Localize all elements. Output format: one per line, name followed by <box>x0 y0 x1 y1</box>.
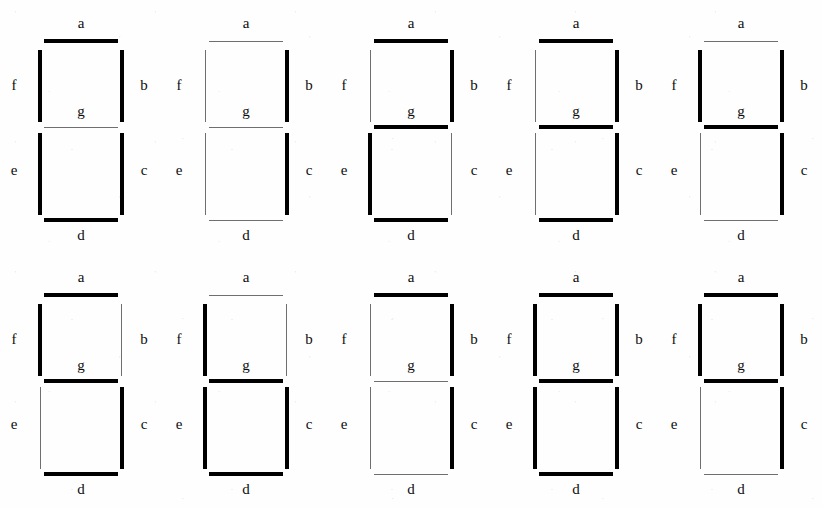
segment-g-on <box>44 379 118 383</box>
segment-label-e: e <box>666 417 682 432</box>
segment-c-on <box>615 133 619 215</box>
segment-label-d: d <box>238 228 254 243</box>
segment-a-on <box>374 293 448 297</box>
segment-label-g: g <box>568 358 584 373</box>
segment-a-on <box>374 39 448 43</box>
segment-label-f: f <box>501 332 517 347</box>
segment-label-a: a <box>733 270 749 285</box>
segment-label-d: d <box>73 228 89 243</box>
segment-label-a: a <box>238 16 254 31</box>
segment-label-b: b <box>136 78 152 93</box>
segment-f-off <box>370 50 371 122</box>
display-row-top: afbgecdafbgecdafbgecdafbgecdafbgecd <box>0 0 823 254</box>
segment-d-on <box>209 472 283 476</box>
segment-e-on <box>203 387 207 469</box>
segment-label-b: b <box>301 332 317 347</box>
segment-label-e: e <box>501 417 517 432</box>
segment-f-off <box>370 304 371 376</box>
seven-segment-display-0: afbgecd <box>0 0 165 254</box>
segment-label-g: g <box>403 358 419 373</box>
segment-label-b: b <box>136 332 152 347</box>
segment-a-on <box>44 293 118 297</box>
segment-label-f: f <box>6 78 22 93</box>
segment-b-on <box>450 304 454 376</box>
segment-d-off <box>704 220 778 221</box>
segment-f-on <box>38 304 42 376</box>
segment-c-on <box>285 387 289 469</box>
segment-f-on <box>38 50 42 122</box>
segment-label-f: f <box>6 332 22 347</box>
seven-segment-digit-figure: afbgecdafbgecdafbgecdafbgecdafbgecd afbg… <box>0 0 823 508</box>
segment-e-off <box>535 133 536 215</box>
segment-label-d: d <box>568 228 584 243</box>
segment-label-b: b <box>631 78 647 93</box>
segment-label-b: b <box>466 78 482 93</box>
segment-b-on <box>120 50 124 122</box>
segment-d-on <box>539 218 613 222</box>
display-row-bottom: afbgecdafbgecdafbgecdafbgecdafbgecd <box>0 254 823 508</box>
segment-label-c: c <box>796 417 812 432</box>
segment-label-b: b <box>796 332 812 347</box>
segment-e-on <box>368 133 372 215</box>
segment-b-on <box>780 304 784 376</box>
seven-segment-display-9: afbgecd <box>660 254 823 508</box>
segment-label-c: c <box>301 163 317 178</box>
segment-label-e: e <box>336 163 352 178</box>
segment-e-off <box>370 387 371 469</box>
seven-segment-display-7: afbgecd <box>330 254 495 508</box>
segment-g-on <box>539 379 613 383</box>
segment-label-g: g <box>73 104 89 119</box>
segment-label-c: c <box>466 163 482 178</box>
segment-label-a: a <box>403 270 419 285</box>
segment-label-a: a <box>238 270 254 285</box>
segment-e-on <box>38 133 42 215</box>
segment-label-c: c <box>136 417 152 432</box>
segment-e-on <box>533 387 537 469</box>
segment-b-on <box>285 50 289 122</box>
segment-d-off <box>209 220 283 221</box>
segment-b-on <box>615 50 619 122</box>
segment-f-on <box>698 304 702 376</box>
segment-a-off <box>209 41 283 42</box>
segment-c-on <box>450 387 454 469</box>
segment-label-d: d <box>238 482 254 497</box>
segment-g-off <box>209 127 283 128</box>
segment-c-on <box>285 133 289 215</box>
seven-segment-display-3: afbgecd <box>495 0 660 254</box>
segment-label-b: b <box>301 78 317 93</box>
segment-a-on <box>704 293 778 297</box>
segment-label-c: c <box>301 417 317 432</box>
segment-b-off <box>121 304 122 376</box>
segment-label-e: e <box>6 417 22 432</box>
segment-label-g: g <box>568 104 584 119</box>
segment-label-c: c <box>136 163 152 178</box>
segment-label-c: c <box>796 163 812 178</box>
segment-c-on <box>120 133 124 215</box>
segment-f-on <box>698 50 702 122</box>
segment-label-f: f <box>666 332 682 347</box>
segment-label-f: f <box>336 332 352 347</box>
segment-a-off <box>209 295 283 296</box>
segment-label-a: a <box>568 270 584 285</box>
segment-f-on <box>203 304 207 376</box>
segment-g-on <box>209 379 283 383</box>
segment-g-on <box>374 125 448 129</box>
segment-e-off <box>700 387 701 469</box>
segment-label-c: c <box>466 417 482 432</box>
segment-label-a: a <box>403 16 419 31</box>
segment-label-d: d <box>733 228 749 243</box>
segment-label-f: f <box>171 332 187 347</box>
segment-f-off <box>535 50 536 122</box>
segment-label-e: e <box>171 417 187 432</box>
segment-f-off <box>205 50 206 122</box>
segment-g-off <box>44 127 118 128</box>
segment-e-off <box>205 133 206 215</box>
seven-segment-display-8: afbgecd <box>495 254 660 508</box>
segment-label-a: a <box>73 270 89 285</box>
segment-label-f: f <box>501 78 517 93</box>
segment-label-e: e <box>666 163 682 178</box>
segment-f-on <box>533 304 537 376</box>
seven-segment-display-1: afbgecd <box>165 0 330 254</box>
segment-label-c: c <box>631 163 647 178</box>
segment-label-b: b <box>631 332 647 347</box>
